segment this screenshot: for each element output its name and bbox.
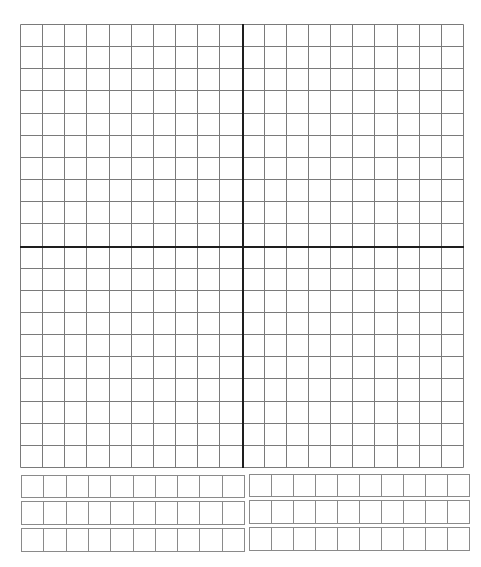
answer-strip-left-3 xyxy=(21,528,245,552)
coordinate-plane xyxy=(20,24,465,469)
answer-strip-right-1 xyxy=(249,474,470,497)
answer-strip-right-2 xyxy=(249,500,470,524)
answer-strip-right-3 xyxy=(249,527,470,551)
grid-svg xyxy=(20,24,465,469)
answer-strip-left-1 xyxy=(21,475,245,498)
answer-strip-left-2 xyxy=(21,501,245,525)
